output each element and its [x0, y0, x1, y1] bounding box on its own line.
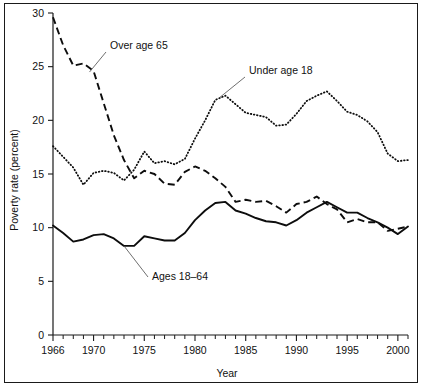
x-tick-label: 1995 [335, 344, 359, 356]
y-axis-title: Poverty rate (percent) [8, 129, 20, 231]
axes: 0510152025301966197019751980198519901995… [32, 7, 409, 356]
y-tick-label: 15 [32, 168, 44, 180]
x-tick-label: 1980 [183, 344, 207, 356]
x-tick-label: 1985 [234, 344, 258, 356]
ages-18-64-label: Ages 18–64 [152, 270, 208, 282]
data-series [53, 17, 408, 246]
chart-canvas: 0510152025301966197019751980198519901995… [0, 0, 425, 392]
x-tick-label: 1975 [133, 344, 157, 356]
series-line-under-age-18 [53, 91, 408, 184]
axis-titles: Year Poverty rate (percent) [8, 129, 238, 379]
leader-line-over-65-label [90, 52, 106, 72]
over-65-label: Over age 65 [110, 39, 168, 51]
series-line-over-age-65 [53, 17, 408, 231]
y-tick-label: 25 [32, 60, 44, 72]
x-tick-label: 1990 [285, 344, 309, 356]
poverty-rate-line-chart: 0510152025301966197019751980198519901995… [0, 0, 425, 392]
series-line-ages-18-64 [53, 202, 408, 246]
x-tick-label: 1966 [41, 344, 65, 356]
under-18-label: Under age 18 [249, 64, 313, 76]
y-tick-label: 5 [38, 275, 44, 287]
x-axis-title: Year [216, 367, 238, 379]
leader-line-under-18-label [219, 77, 245, 98]
y-tick-label: 30 [32, 7, 44, 19]
x-tick-label: 1970 [82, 344, 106, 356]
leader-line-ages-18-64-label [124, 246, 148, 277]
y-tick-label: 0 [38, 329, 44, 341]
x-tick-label: 2000 [386, 344, 410, 356]
y-tick-label: 10 [32, 221, 44, 233]
y-tick-label: 20 [32, 114, 44, 126]
